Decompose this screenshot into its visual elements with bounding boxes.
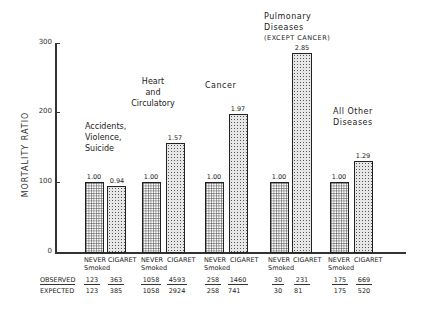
expected-value: 385: [108, 287, 124, 295]
value-label: 2.85: [287, 44, 317, 52]
expected-label: EXPECTED: [40, 287, 74, 295]
observed-value: 123: [84, 276, 100, 285]
bar-heart-never: [142, 182, 161, 253]
tick-label-300: 300: [4, 38, 52, 46]
x-label-never: NEVER Smoked: [268, 256, 294, 272]
observed-value: 175: [332, 276, 348, 285]
value-label: 1.29: [348, 152, 378, 160]
tick-label-0: 0: [4, 247, 52, 255]
category-label-heart: Heart and Circulatory: [130, 76, 176, 109]
observed-value: 4593: [167, 276, 187, 285]
x-label-cigaret: CIGARET: [293, 256, 322, 264]
bar-cancer-cigaret: [229, 114, 248, 253]
bar-accidents-never: [85, 182, 104, 253]
value-label: 1.00: [199, 173, 229, 181]
x-label-never: NEVER Smoked: [204, 256, 230, 272]
value-label: 0.94: [102, 177, 132, 185]
expected-value: 258: [205, 287, 221, 295]
x-label-cigaret: CIGARET: [108, 256, 137, 264]
observed-value: 30: [272, 276, 284, 285]
expected-value: 2924: [167, 287, 187, 295]
expected-value: 123: [84, 287, 100, 295]
tick-200: [55, 112, 60, 113]
tick-300: [55, 43, 60, 44]
expected-value: 520: [356, 287, 372, 295]
value-label: 1.00: [264, 173, 294, 181]
observed-value: 669: [356, 276, 372, 285]
x-label-cigaret: CIGARET: [354, 256, 383, 264]
x-label-never: NEVER Smoked: [141, 256, 167, 272]
bar-cancer-never: [205, 182, 224, 253]
category-label-cancer: Cancer: [205, 80, 236, 91]
bar-pulmonary-never: [270, 182, 289, 253]
bar-pulmonary-cigaret: [292, 53, 312, 253]
tick-100: [55, 182, 60, 183]
expected-value: 175: [332, 287, 348, 295]
observed-value: 231: [294, 276, 310, 285]
tick-label-100: 100: [4, 177, 52, 185]
expected-value: 741: [228, 287, 244, 295]
value-label: 1.00: [324, 173, 354, 181]
observed-label: OBSERVED: [40, 276, 75, 285]
x-label-cigaret: CIGARET: [167, 256, 196, 264]
value-label: 1.00: [136, 173, 166, 181]
value-label: 1.57: [160, 134, 190, 142]
y-axis-label: MORTALITY RATIO: [21, 110, 30, 200]
bar-other-cigaret: [354, 161, 373, 253]
value-label: 1.97: [223, 105, 253, 113]
y-axis: [55, 43, 57, 253]
expected-value: 30: [272, 287, 284, 295]
observed-value: 1460: [228, 276, 248, 285]
x-label-never: NEVER Smoked: [328, 256, 354, 272]
tick-label-200: 200: [4, 107, 52, 115]
category-label-pulmonary: Pulmonary Diseases (EXCEPT CANCER): [264, 11, 330, 44]
observed-value: 1058: [141, 276, 161, 285]
x-label-never: NEVER Smoked: [84, 256, 110, 272]
x-label-cigaret: CIGARET: [230, 256, 259, 264]
observed-value: 363: [108, 276, 124, 285]
bar-accidents-cigaret: [107, 186, 126, 253]
category-label-accidents: Accidents, Violence, Suicide: [85, 121, 126, 154]
category-label-all-other: All Other Diseases: [333, 106, 373, 128]
bar-other-never: [330, 182, 349, 253]
bar-heart-cigaret: [166, 143, 185, 253]
expected-value: 1058: [141, 287, 161, 295]
expected-value: 81: [294, 287, 306, 295]
observed-value: 258: [205, 276, 221, 285]
